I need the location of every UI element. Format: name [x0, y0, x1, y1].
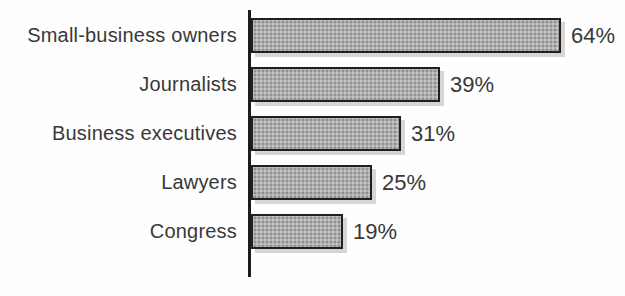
value-label: 25%	[382, 170, 426, 196]
bar	[251, 18, 561, 53]
bar-chart: Small-business owners 64% Journalists 39…	[0, 0, 625, 296]
category-label: Business executives	[0, 116, 237, 151]
bar-row-lawyers: Lawyers 25%	[0, 165, 625, 200]
bar	[251, 165, 372, 200]
bar-row-journalists: Journalists 39%	[0, 67, 625, 102]
category-label: Small-business owners	[0, 18, 237, 53]
bar-rows: Small-business owners 64% Journalists 39…	[0, 18, 625, 263]
bar-row-small-business-owners: Small-business owners 64%	[0, 18, 625, 53]
category-label: Journalists	[0, 67, 237, 102]
bar-row-business-executives: Business executives 31%	[0, 116, 625, 151]
value-label: 19%	[353, 219, 397, 245]
bar-row-congress: Congress 19%	[0, 214, 625, 249]
value-label: 39%	[450, 72, 494, 98]
bar	[251, 214, 343, 249]
bar	[251, 116, 401, 151]
bar	[251, 67, 440, 102]
category-label: Lawyers	[0, 165, 237, 200]
value-label: 64%	[571, 23, 615, 49]
value-label: 31%	[411, 121, 455, 147]
category-label: Congress	[0, 214, 237, 249]
